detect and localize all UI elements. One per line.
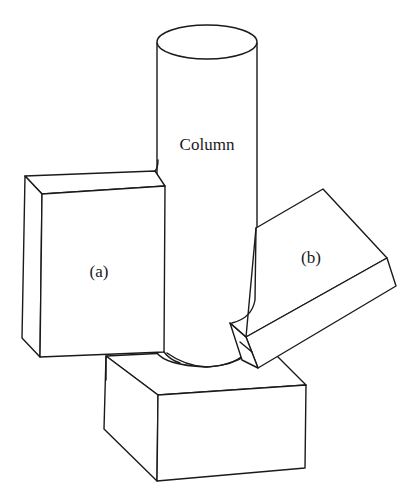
column-cylinder [157, 25, 257, 367]
block-b-label: (b) [301, 248, 321, 267]
column-blocks-diagram: Column (a) (b) [0, 0, 413, 501]
column-label: Column [180, 135, 235, 154]
base-block [104, 353, 306, 481]
block-a-label: (a) [90, 262, 109, 281]
